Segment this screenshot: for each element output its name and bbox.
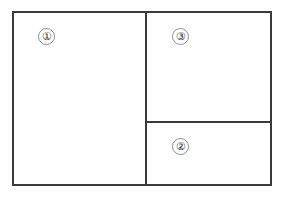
region-number-badge-2: ② bbox=[172, 138, 189, 155]
column-divider bbox=[145, 13, 147, 184]
region-number-badge-3: ③ bbox=[172, 28, 189, 45]
region-panel-2[interactable]: ② bbox=[147, 123, 272, 184]
diagram-frame: ① ③ ② bbox=[12, 11, 272, 186]
region-panel-1[interactable]: ① bbox=[14, 13, 145, 184]
region-panel-3[interactable]: ③ bbox=[147, 13, 272, 121]
right-column-row-divider bbox=[145, 121, 272, 123]
region-number-badge-1: ① bbox=[38, 28, 55, 45]
layout-diagram: ① ③ ② bbox=[0, 0, 285, 200]
